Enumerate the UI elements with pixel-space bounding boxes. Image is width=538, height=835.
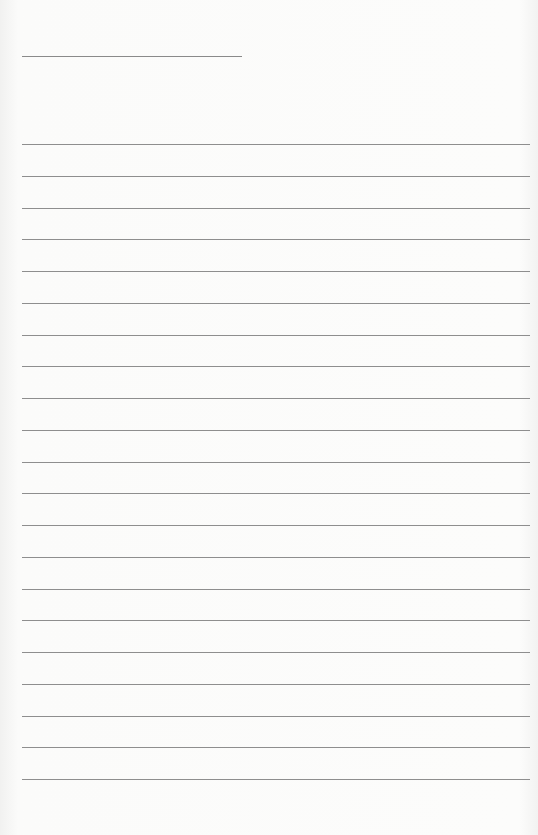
ruled-line bbox=[22, 366, 530, 367]
ruled-line bbox=[22, 716, 530, 717]
lined-paper-page bbox=[0, 0, 538, 835]
ruled-line bbox=[22, 303, 530, 304]
title-rule bbox=[22, 56, 242, 57]
ruled-line bbox=[22, 430, 530, 431]
ruled-line bbox=[22, 398, 530, 399]
ruled-line bbox=[22, 589, 530, 590]
ruled-line bbox=[22, 779, 530, 780]
ruled-line bbox=[22, 335, 530, 336]
ruled-line bbox=[22, 747, 530, 748]
ruled-line bbox=[22, 557, 530, 558]
ruled-line bbox=[22, 620, 530, 621]
ruled-line bbox=[22, 684, 530, 685]
ruled-line bbox=[22, 239, 530, 240]
ruled-line bbox=[22, 462, 530, 463]
ruled-line bbox=[22, 144, 530, 145]
ruled-line bbox=[22, 208, 530, 209]
ruled-line bbox=[22, 271, 530, 272]
ruled-line bbox=[22, 652, 530, 653]
ruled-line bbox=[22, 493, 530, 494]
ruled-line bbox=[22, 176, 530, 177]
ruled-line bbox=[22, 525, 530, 526]
